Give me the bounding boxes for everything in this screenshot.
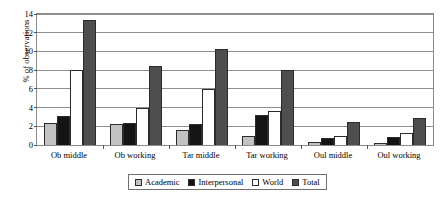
- x-axis-category-label: Ob working: [115, 150, 156, 160]
- y-axis-tick-label: 8: [29, 65, 33, 75]
- bar-academic: [242, 136, 255, 145]
- y-axis-tick-label: 12: [25, 28, 34, 38]
- bar-world: [136, 108, 149, 145]
- legend-item-label: World: [262, 177, 283, 187]
- x-axis-category-label: Tar middle: [183, 150, 220, 160]
- bar-interpersonal: [387, 137, 400, 145]
- plot-area: 02468101214: [36, 13, 434, 146]
- bar-academic: [110, 124, 123, 145]
- bar-interpersonal: [57, 116, 70, 145]
- legend-item[interactable]: World: [252, 177, 283, 187]
- chart-legend: AcademicInterpersonalWorldTotal: [128, 174, 327, 190]
- y-axis-tick-label: 6: [29, 84, 33, 94]
- y-axis-tick-label: 10: [25, 46, 34, 56]
- bar-world: [202, 89, 215, 145]
- bar-world: [268, 111, 281, 145]
- y-axis-tick-label: 2: [29, 121, 33, 131]
- bar-academic: [308, 142, 321, 145]
- bar-total: [347, 122, 360, 145]
- bar-academic: [44, 123, 57, 145]
- bar-interpersonal: [321, 138, 334, 145]
- x-axis-category-label: Ob middle: [51, 150, 87, 160]
- legend-item[interactable]: Academic: [135, 177, 179, 187]
- y-axis-tick-label: 4: [29, 103, 33, 113]
- bar-world: [334, 136, 347, 145]
- bar-interpersonal: [255, 115, 268, 145]
- bar-world: [70, 70, 83, 145]
- x-axis-tick-mark: [367, 145, 368, 149]
- bar-total: [83, 20, 96, 145]
- x-axis-tick-mark: [235, 145, 236, 149]
- x-axis-category-label: Oul middle: [314, 150, 352, 160]
- legend-item[interactable]: Interpersonal: [188, 177, 243, 187]
- bar-world: [400, 133, 413, 145]
- x-axis-tick-mark: [169, 145, 170, 149]
- legend-item[interactable]: Total: [292, 177, 319, 187]
- legend-item-label: Total: [302, 177, 319, 187]
- legend-swatch-icon: [252, 179, 259, 186]
- bar-interpersonal: [189, 124, 202, 145]
- bar-academic: [176, 130, 189, 145]
- bar-interpersonal: [123, 123, 136, 145]
- legend-swatch-icon: [135, 179, 142, 186]
- bar-total: [281, 70, 294, 145]
- x-axis-category-label: Tar working: [246, 150, 288, 160]
- bar-group: [37, 14, 103, 145]
- x-axis-category-label: Oul working: [377, 150, 420, 160]
- bar-group: [103, 14, 169, 145]
- bar-group: [301, 14, 367, 145]
- legend-swatch-icon: [188, 179, 195, 186]
- bar-total: [149, 66, 162, 145]
- legend-item-label: Academic: [145, 177, 179, 187]
- bar-total: [413, 118, 426, 145]
- y-axis-tick-label: 14: [25, 9, 34, 19]
- bar-total: [215, 49, 228, 145]
- bar-group: [367, 14, 433, 145]
- x-axis-tick-mark: [301, 145, 302, 149]
- bar-chart-figure: % of observations 02468101214 Ob middleO…: [0, 0, 443, 200]
- bar-group: [169, 14, 235, 145]
- legend-swatch-icon: [292, 179, 299, 186]
- legend-item-label: Interpersonal: [198, 177, 243, 187]
- y-axis-tick-label: 0: [29, 140, 33, 150]
- x-axis-tick-mark: [103, 145, 104, 149]
- bar-group: [235, 14, 301, 145]
- bar-academic: [374, 143, 387, 145]
